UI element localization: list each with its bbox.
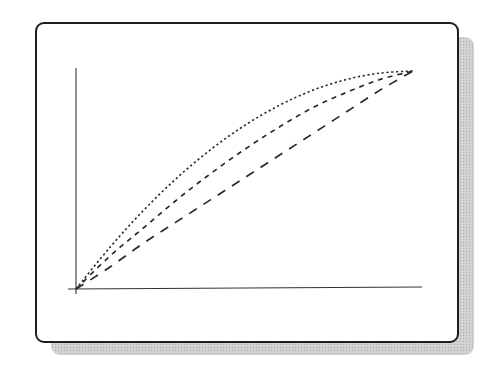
curves-group <box>76 71 413 289</box>
line-diagram <box>0 0 490 374</box>
medium-dashed-curve <box>76 71 413 289</box>
x-axis <box>68 287 422 289</box>
dotted-curve <box>76 71 413 289</box>
long-dashed-curve <box>76 71 413 289</box>
